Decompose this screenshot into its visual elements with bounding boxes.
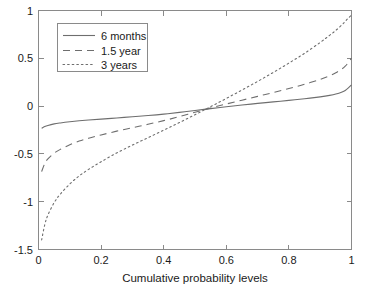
x-tick-label: 0.6 bbox=[219, 254, 234, 266]
legend-label-6-months: 6 months bbox=[101, 30, 147, 42]
x-tick-labels: 0 0.2 0.4 0.6 0.8 1 bbox=[35, 254, 354, 266]
figure-canvas: 1 0.5 0 -0.5 -1 -1.5 0 0.2 0.4 0.6 0.8 1… bbox=[0, 0, 373, 291]
x-tick-label: 0.4 bbox=[156, 254, 171, 266]
y-tick-label: 0 bbox=[27, 100, 33, 112]
y-tick-labels: 1 0.5 0 -0.5 -1 -1.5 bbox=[14, 5, 33, 256]
x-tick-label: 0.2 bbox=[93, 254, 108, 266]
x-axis-title: Cumulative probability levels bbox=[122, 272, 268, 284]
y-tick-label: -0.5 bbox=[14, 148, 33, 160]
x-tick-label: 0 bbox=[35, 254, 41, 266]
y-tick-label: 1 bbox=[27, 5, 33, 17]
x-tick-marks bbox=[39, 245, 352, 250]
legend-label-1-5-year: 1.5 year bbox=[101, 45, 141, 57]
y-tick-marks bbox=[39, 11, 44, 250]
chart-legend: 6 months 1.5 year 3 years bbox=[58, 24, 148, 72]
series-line-1-5-year bbox=[42, 58, 352, 171]
legend-label-3-years: 3 years bbox=[101, 59, 138, 71]
x-tick-label: 1 bbox=[348, 254, 354, 266]
y-tick-label: 0.5 bbox=[18, 52, 33, 64]
y-tick-label: -1 bbox=[23, 196, 33, 208]
y-tick-marks-right bbox=[347, 58, 352, 201]
y-tick-label: -1.5 bbox=[14, 244, 33, 256]
series-line-6-months bbox=[42, 85, 352, 128]
chart-plot: 1 0.5 0 -0.5 -1 -1.5 0 0.2 0.4 0.6 0.8 1… bbox=[0, 0, 373, 291]
x-tick-label: 0.8 bbox=[281, 254, 296, 266]
x-tick-marks-top bbox=[101, 11, 289, 16]
